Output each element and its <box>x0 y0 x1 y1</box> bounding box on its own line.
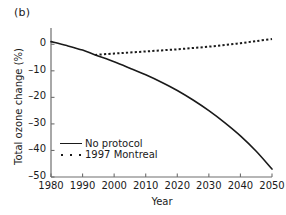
x-axis-label: Year <box>51 196 273 207</box>
legend-label-no-protocol: No protocol <box>85 138 143 149</box>
chart-legend: No protocol 1997 Montreal <box>60 138 158 160</box>
y-axis-label: Total ozone change (%) <box>13 32 24 182</box>
legend-item-montreal: 1997 Montreal <box>60 149 158 160</box>
legend-solid-line-icon <box>60 139 82 149</box>
x-tick-label: 2050 <box>252 180 286 191</box>
legend-item-no-protocol: No protocol <box>60 138 158 149</box>
ozone-change-figure: (b) 0–10–20–30–40–50 1980199020002010202… <box>0 0 286 215</box>
x-tick-labels: 19801990200020102020203020402050 <box>0 0 286 215</box>
legend-label-montreal: 1997 Montreal <box>85 149 158 160</box>
legend-dotted-line-icon <box>60 150 82 160</box>
